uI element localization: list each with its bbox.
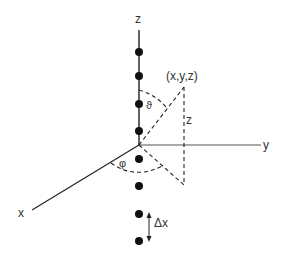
spacing-arrow: [147, 212, 152, 242]
z-axis-label: z: [135, 12, 141, 26]
spacing-label: Δx: [154, 216, 168, 230]
diagram-canvas: z y x (x,y,z) z ϑ φ Δx: [0, 0, 291, 263]
spherical-coordinates-diagram: z y x (x,y,z) z ϑ φ Δx: [0, 0, 291, 263]
theta-label: ϑ: [146, 99, 152, 111]
height-label: z: [186, 113, 192, 127]
y-axis-label: y: [263, 138, 269, 152]
phi-label: φ: [119, 157, 126, 169]
dots-below-origin: [135, 155, 143, 245]
point-label: (x,y,z): [166, 69, 198, 83]
x-axis-label: x: [18, 206, 24, 220]
x-axis: [32, 145, 139, 210]
